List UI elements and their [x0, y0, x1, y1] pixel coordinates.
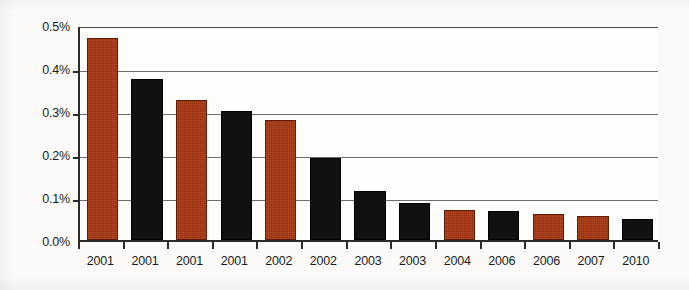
- x-tick-mark: [78, 242, 80, 249]
- bar: [444, 210, 475, 240]
- x-axis-tick-label: 2003: [354, 254, 381, 268]
- x-axis-tick-label: 2007: [578, 254, 605, 268]
- x-axis-tick-label: 2006: [488, 254, 515, 268]
- x-tick-mark: [480, 242, 482, 249]
- bar: [399, 203, 430, 240]
- bar: [87, 38, 118, 240]
- y-axis-tick-label: 0.0%: [10, 235, 70, 249]
- bar: [488, 211, 519, 240]
- x-axis-tick-label: 2010: [622, 254, 649, 268]
- x-tick-mark: [256, 242, 258, 249]
- x-tick-mark: [613, 242, 615, 249]
- y-axis-labels: 0.5%0.4%0.3%0.2%0.1%0.0%: [8, 0, 70, 290]
- x-axis-tick-label: 2002: [310, 254, 337, 268]
- y-tick-mark: [73, 157, 80, 159]
- bar: [265, 120, 296, 240]
- x-axis-tick-label: 2001: [87, 254, 114, 268]
- bar: [221, 111, 252, 240]
- x-tick-mark: [658, 242, 660, 249]
- x-tick-mark: [123, 242, 125, 249]
- bar: [533, 214, 564, 240]
- y-axis-tick-label: 0.2%: [10, 149, 70, 163]
- chart-page: 0.5%0.4%0.3%0.2%0.1%0.0% 200120012001200…: [0, 0, 689, 290]
- y-axis-tick-label: 0.1%: [10, 192, 70, 206]
- x-axis-tick-label: 2001: [221, 254, 248, 268]
- x-tick-mark: [301, 242, 303, 249]
- x-axis-tick-label: 2001: [176, 254, 203, 268]
- bar: [354, 191, 385, 240]
- y-tick-mark: [73, 200, 80, 202]
- bar: [131, 79, 162, 240]
- bar: [622, 219, 653, 241]
- y-axis-tick-label: 0.4%: [10, 63, 70, 77]
- x-axis-tick-label: 2006: [533, 254, 560, 268]
- bar: [577, 216, 608, 240]
- x-axis-tick-label: 2002: [265, 254, 292, 268]
- x-tick-mark: [167, 242, 169, 249]
- x-axis-tick-label: 2001: [131, 254, 158, 268]
- x-tick-mark: [524, 242, 526, 249]
- x-axis-tick-label: 2004: [444, 254, 471, 268]
- y-axis-tick-label: 0.3%: [10, 106, 70, 120]
- x-axis-tick-label: 2003: [399, 254, 426, 268]
- gridline: [80, 157, 658, 158]
- x-tick-mark: [569, 242, 571, 249]
- x-tick-mark: [212, 242, 214, 249]
- x-tick-mark: [390, 242, 392, 249]
- plot-area: [78, 27, 658, 242]
- x-tick-mark: [346, 242, 348, 249]
- bar: [310, 158, 341, 240]
- y-tick-mark: [73, 71, 80, 73]
- gridline: [80, 71, 658, 72]
- y-tick-mark: [73, 114, 80, 116]
- bar: [176, 100, 207, 240]
- x-tick-mark: [435, 242, 437, 249]
- y-axis-tick-label: 0.5%: [10, 20, 70, 34]
- gridline: [80, 114, 658, 115]
